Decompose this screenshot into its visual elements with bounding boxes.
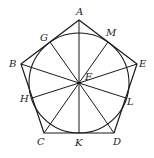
label-c: C [37, 136, 45, 147]
segment-fc [44, 83, 79, 133]
segment-fg [50, 42, 79, 83]
label-d: D [112, 136, 121, 147]
label-h: H [19, 93, 29, 104]
label-f: F [84, 71, 93, 82]
label-g: G [40, 32, 48, 43]
label-k: K [74, 137, 83, 148]
segment-fl [79, 83, 126, 98]
segment-fm [79, 42, 108, 83]
label-b: B [8, 58, 16, 69]
label-e: E [138, 58, 147, 69]
segment-fh [32, 83, 79, 98]
label-l: L [126, 96, 134, 107]
segment-fd [79, 83, 114, 133]
geometry-figure: ABCDEFGMHLK [0, 0, 154, 158]
label-m: M [105, 27, 117, 38]
label-a: A [75, 6, 83, 17]
pentagon-diagram: ABCDEFGMHLK [0, 0, 154, 158]
